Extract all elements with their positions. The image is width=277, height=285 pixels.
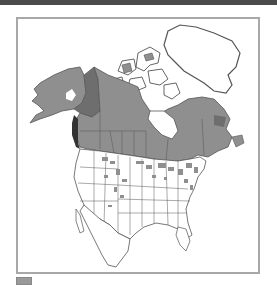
legend [16, 277, 36, 285]
top-band [0, 0, 277, 5]
labrador-patch [214, 115, 226, 127]
range-map [16, 17, 260, 274]
north-america-map [18, 19, 258, 272]
legend-swatch [16, 277, 32, 285]
newfoundland [232, 135, 244, 147]
alaska [30, 67, 86, 123]
